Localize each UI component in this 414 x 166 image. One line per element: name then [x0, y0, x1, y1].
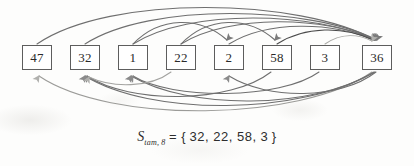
node-box-0[interactable]: 47: [22, 45, 52, 70]
node-label: 2: [226, 50, 233, 66]
figure-caption: Stam, 8 = { 32, 22, 58, 3 }: [0, 129, 414, 147]
node-box-4[interactable]: 2: [214, 45, 244, 70]
node-label: 1: [130, 50, 137, 66]
node-box-2[interactable]: 1: [118, 45, 148, 70]
arc-below-3-to-1: [133, 72, 319, 94]
caption-close-brace: }: [272, 129, 277, 144]
node-label: 47: [30, 50, 44, 66]
node-label: 32: [78, 50, 92, 66]
node-label: 36: [370, 50, 384, 66]
node-box-6[interactable]: 3: [310, 45, 340, 70]
figure-canvas: 47 32 1 22 2 58 3 36 Stam, 8 = { 32, 22,…: [0, 0, 414, 166]
node-box-1[interactable]: 32: [70, 45, 100, 70]
node-label: 22: [174, 50, 188, 66]
caption-subscript: tam, 8: [144, 138, 165, 147]
caption-equals: = {: [169, 129, 186, 144]
node-box-3[interactable]: 22: [166, 45, 196, 70]
node-label: 58: [270, 50, 284, 66]
caption-set-values: 32, 22, 58, 3: [190, 129, 269, 144]
node-box-5[interactable]: 58: [262, 45, 292, 70]
arc-below-22-to-32: [89, 72, 171, 85]
node-box-7[interactable]: 36: [362, 45, 392, 70]
arc-above-2-to-36: [229, 26, 374, 44]
node-label: 3: [322, 50, 329, 66]
arc-above-47-to-36: [37, 8, 375, 45]
arc-above-22-to-58: [181, 22, 275, 44]
